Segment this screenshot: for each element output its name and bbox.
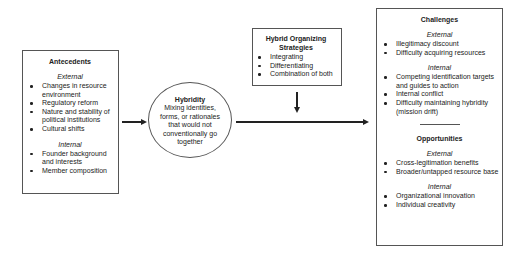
outcomes-box: Challenges External Illegitimacy discoun… — [376, 8, 503, 246]
antecedents-box: Antecedents External Changes in resource… — [22, 50, 119, 194]
arrow-head-icon — [363, 119, 369, 125]
hybridity-title: Hybridity — [175, 95, 205, 104]
list-item: Member composition — [25, 167, 115, 176]
antecedents-internal-list: Founder background and interests Member … — [25, 150, 115, 176]
antecedents-title: Antecedents — [25, 57, 115, 66]
antecedents-external-list: Changes in resource environment Regulato… — [25, 82, 115, 134]
list-item: Difficulty maintaining hybridity (missio… — [379, 99, 500, 116]
list-item: Regulatory reform — [25, 99, 115, 108]
opportunities-internal-list: Organizational innovation Individual cre… — [379, 192, 500, 209]
antecedents-internal-label: Internal — [25, 140, 115, 149]
challenges-title: Challenges — [379, 15, 500, 24]
list-item: Founder background and interests — [25, 150, 115, 167]
strategies-title: Hybrid Organizing Strategies — [253, 34, 339, 52]
list-item: Changes in resource environment — [25, 82, 115, 99]
list-item: Organizational innovation — [379, 192, 500, 201]
list-item: Differentiating — [253, 62, 339, 71]
challenges-internal-list: Competing identification targets and gui… — [379, 73, 500, 116]
hybridity-description: Mixing identities, forms, or rationales … — [155, 104, 225, 147]
arrow-hybridity-to-outcomes — [236, 121, 364, 123]
opportunities-internal-label: Internal — [379, 182, 500, 191]
list-item: Illegitimacy discount — [379, 40, 500, 49]
opportunities-external-label: External — [379, 149, 500, 158]
strategies-list: Integrating Differentiating Combination … — [253, 53, 339, 79]
arrow-strategies-down — [296, 92, 298, 108]
list-item: Broader/untapped resource base — [379, 168, 500, 177]
list-item: Internal conflict — [379, 90, 500, 99]
list-item: Competing identification targets and gui… — [379, 73, 500, 90]
list-item: Combination of both — [253, 70, 339, 79]
opportunities-title: Opportunities — [379, 134, 500, 143]
list-item: Integrating — [253, 53, 339, 62]
list-item: Cultural shifts — [25, 125, 115, 134]
challenges-internal-label: Internal — [379, 63, 500, 72]
strategies-box: Hybrid Organizing Strategies Integrating… — [252, 28, 342, 86]
arrow-head-icon — [294, 107, 300, 113]
list-item: Difficulty acquiring resources — [379, 49, 500, 58]
opportunities-external-list: Cross-legitimation benefits Broader/unta… — [379, 159, 500, 176]
list-item: Cross-legitimation benefits — [379, 159, 500, 168]
arrow-head-icon — [141, 119, 147, 125]
section-divider — [420, 124, 460, 125]
challenges-external-label: External — [379, 30, 500, 39]
arrow-antecedents-to-hybridity — [122, 121, 142, 123]
antecedents-external-label: External — [25, 72, 115, 81]
list-item: Nature and stability of political instit… — [25, 108, 115, 125]
hybridity-ellipse: Hybridity Mixing identities, forms, or r… — [148, 82, 232, 158]
list-item: Individual creativity — [379, 201, 500, 210]
challenges-external-list: Illegitimacy discount Difficulty acquiri… — [379, 40, 500, 57]
